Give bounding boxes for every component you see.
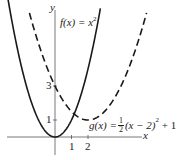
x-tick-label-2: 2 bbox=[85, 141, 91, 152]
g-label-tail: + 1 bbox=[159, 120, 176, 131]
g-label-denominator: 2 bbox=[119, 126, 123, 134]
f-function-label: f(x) = x2 bbox=[60, 16, 97, 28]
x-tick-label-1: 1 bbox=[69, 141, 75, 152]
y-axis-label: y bbox=[50, 2, 55, 13]
g-label-mid: (x − 2) bbox=[125, 120, 156, 131]
f-label-text: f(x) = x bbox=[60, 16, 93, 28]
f-label-exponent: 2 bbox=[93, 15, 97, 23]
y-tick-label-1: 1 bbox=[46, 114, 52, 125]
y-tick-label-3: 3 bbox=[46, 80, 52, 91]
g-function-label: g(x) = 1 2 (x − 2)2 + 1 bbox=[89, 117, 176, 134]
g-label-fraction: 1 2 bbox=[118, 117, 124, 134]
g-label-lhs: g(x) = bbox=[89, 120, 117, 131]
